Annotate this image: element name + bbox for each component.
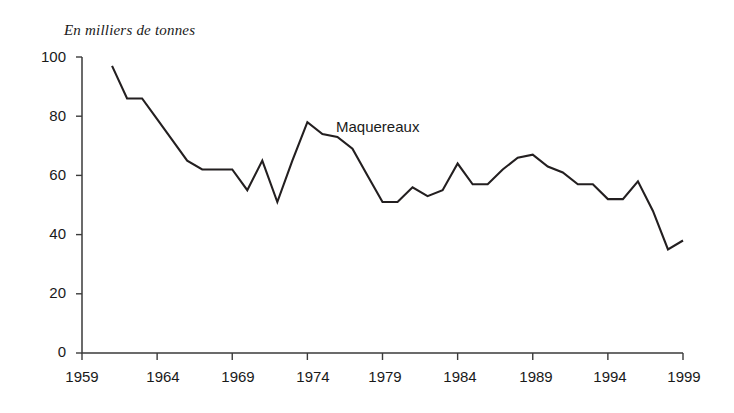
plot-area — [0, 0, 734, 413]
chart-figure: En milliers de tonnes 100 80 60 40 20 0 … — [0, 0, 734, 413]
chart-axes — [76, 57, 683, 360]
data-line-maquereaux — [112, 66, 683, 250]
